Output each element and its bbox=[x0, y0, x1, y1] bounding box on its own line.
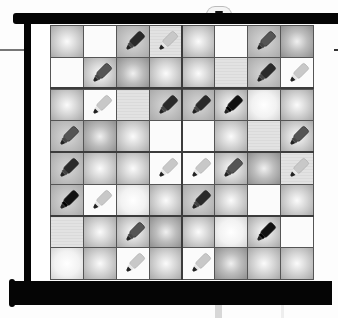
board-divider-horizontal bbox=[50, 215, 314, 217]
board-cell[interactable] bbox=[248, 26, 280, 57]
board-cell[interactable] bbox=[117, 248, 149, 279]
board-cell[interactable] bbox=[117, 90, 149, 121]
board-cell[interactable] bbox=[248, 185, 280, 216]
board-cell[interactable] bbox=[117, 217, 149, 248]
marker-dark-icon[interactable] bbox=[252, 61, 278, 87]
board-cell[interactable] bbox=[150, 185, 182, 216]
board-cell[interactable] bbox=[248, 153, 280, 184]
marker-dark-icon[interactable] bbox=[121, 29, 147, 55]
marker-medium-icon[interactable] bbox=[55, 124, 81, 150]
board-cell[interactable] bbox=[281, 26, 313, 57]
board-cell[interactable] bbox=[51, 26, 83, 57]
top-frame-bar bbox=[13, 13, 338, 24]
board-cell[interactable] bbox=[248, 90, 280, 121]
marker-light-icon[interactable] bbox=[187, 156, 213, 182]
board-cell[interactable] bbox=[281, 248, 313, 279]
board-cell[interactable] bbox=[84, 121, 116, 152]
marker-light-icon[interactable] bbox=[187, 251, 213, 277]
marker-dark-icon[interactable] bbox=[55, 156, 81, 182]
board-cell[interactable] bbox=[117, 26, 149, 57]
marker-black-icon[interactable] bbox=[55, 188, 81, 214]
board-cell[interactable] bbox=[281, 153, 313, 184]
board-cell[interactable] bbox=[183, 153, 215, 184]
board-cell[interactable] bbox=[84, 58, 116, 89]
left-frame-pole bbox=[24, 20, 31, 286]
board-cell[interactable] bbox=[84, 153, 116, 184]
board-cell[interactable] bbox=[51, 248, 83, 279]
bottom-frame-bar bbox=[9, 281, 332, 305]
marker-medium-icon[interactable] bbox=[88, 61, 114, 87]
board-cell[interactable] bbox=[51, 153, 83, 184]
board-cell[interactable] bbox=[150, 121, 182, 152]
board-cell[interactable] bbox=[150, 248, 182, 279]
marker-light-icon[interactable] bbox=[154, 29, 180, 55]
board-cell[interactable] bbox=[183, 90, 215, 121]
board-cell[interactable] bbox=[183, 185, 215, 216]
board-cell[interactable] bbox=[248, 121, 280, 152]
board-cell[interactable] bbox=[215, 153, 247, 184]
stand-leg bbox=[281, 305, 284, 318]
board-cell[interactable] bbox=[248, 58, 280, 89]
board-cell[interactable] bbox=[281, 121, 313, 152]
board-cell[interactable] bbox=[248, 248, 280, 279]
board-cell[interactable] bbox=[215, 217, 247, 248]
bottom-frame-cap bbox=[9, 279, 15, 307]
board-cell[interactable] bbox=[84, 185, 116, 216]
board-cell[interactable] bbox=[215, 26, 247, 57]
marker-light-icon[interactable] bbox=[285, 61, 311, 87]
board-cell[interactable] bbox=[150, 58, 182, 89]
board-cell[interactable] bbox=[117, 153, 149, 184]
marker-light-icon[interactable] bbox=[88, 188, 114, 214]
board-cell[interactable] bbox=[84, 248, 116, 279]
marker-light-icon[interactable] bbox=[285, 156, 311, 182]
board-cell[interactable] bbox=[51, 217, 83, 248]
board-cell[interactable] bbox=[183, 58, 215, 89]
marker-dark-icon[interactable] bbox=[154, 93, 180, 119]
marker-black-icon[interactable] bbox=[252, 220, 278, 246]
marker-dark-icon[interactable] bbox=[187, 188, 213, 214]
board-cell[interactable] bbox=[150, 153, 182, 184]
marker-medium-icon[interactable] bbox=[252, 29, 278, 55]
board-cell[interactable] bbox=[215, 90, 247, 121]
board-cell[interactable] bbox=[84, 217, 116, 248]
board-cell[interactable] bbox=[51, 90, 83, 121]
marker-dark-icon[interactable] bbox=[187, 93, 213, 119]
marker-medium-icon[interactable] bbox=[121, 220, 147, 246]
board-cell[interactable] bbox=[51, 121, 83, 152]
board-cell[interactable] bbox=[281, 185, 313, 216]
board-cell[interactable] bbox=[183, 26, 215, 57]
board-cell[interactable] bbox=[150, 90, 182, 121]
board-cell[interactable] bbox=[215, 121, 247, 152]
marker-medium-icon[interactable] bbox=[219, 156, 245, 182]
side-panel bbox=[31, 24, 51, 280]
board-divider-horizontal bbox=[50, 151, 314, 153]
board-cell[interactable] bbox=[150, 217, 182, 248]
board-cell[interactable] bbox=[51, 185, 83, 216]
marker-light-icon[interactable] bbox=[88, 93, 114, 119]
board-cell[interactable] bbox=[215, 58, 247, 89]
board-cell[interactable] bbox=[215, 248, 247, 279]
board-cell[interactable] bbox=[84, 26, 116, 57]
board-cell[interactable] bbox=[248, 217, 280, 248]
marker-medium-icon[interactable] bbox=[285, 124, 311, 150]
board-cell[interactable] bbox=[215, 185, 247, 216]
board-cell[interactable] bbox=[281, 217, 313, 248]
board-cell[interactable] bbox=[117, 58, 149, 89]
board-cell[interactable] bbox=[183, 121, 215, 152]
left-guide-line bbox=[0, 49, 25, 51]
board-cell[interactable] bbox=[150, 26, 182, 57]
board-cell[interactable] bbox=[183, 248, 215, 279]
stand-leg bbox=[215, 305, 222, 318]
board-cell[interactable] bbox=[117, 121, 149, 152]
board-cell[interactable] bbox=[84, 90, 116, 121]
board-cell[interactable] bbox=[51, 58, 83, 89]
marker-light-icon[interactable] bbox=[121, 251, 147, 277]
board-divider-horizontal bbox=[50, 87, 314, 89]
board-cell[interactable] bbox=[117, 185, 149, 216]
board-cell[interactable] bbox=[281, 58, 313, 89]
right-guide-tick bbox=[334, 49, 338, 51]
marker-black-icon[interactable] bbox=[219, 93, 245, 119]
board-cell[interactable] bbox=[183, 217, 215, 248]
board-cell[interactable] bbox=[281, 90, 313, 121]
marker-light-icon[interactable] bbox=[154, 156, 180, 182]
